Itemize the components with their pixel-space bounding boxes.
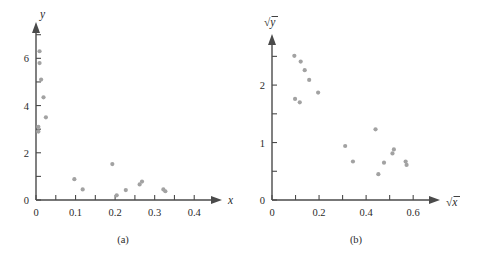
ticks-b: [272, 56, 413, 200]
tick-labels-a: 00.10.20.30.40246: [24, 53, 202, 218]
data-point: [81, 187, 85, 191]
data-point: [382, 161, 386, 165]
y-axis-label-b: √y: [264, 16, 278, 29]
data-point: [351, 159, 355, 163]
y-axis-label-a: y: [39, 8, 46, 21]
figure-container: 00.10.20.30.40246 y x (a) 00.20.40.6012 …: [0, 0, 492, 263]
data-point: [390, 151, 394, 155]
data-point: [343, 144, 347, 148]
x-tick-label: 0.2: [312, 207, 325, 218]
y-tick-label: 2: [260, 80, 265, 91]
axes-b: [268, 34, 440, 204]
data-point: [37, 49, 41, 53]
y-tick-label: 4: [24, 101, 30, 112]
x-tick-label: 0.3: [148, 207, 161, 218]
x-tick-label: 0.1: [69, 207, 82, 218]
data-point: [36, 125, 40, 129]
panel-a: 00.10.20.30.40246 y x (a): [0, 0, 246, 263]
x-axis-label-a: x: [227, 194, 234, 206]
y-tick-label: 0: [24, 195, 29, 206]
x-tick-label: 0.6: [407, 207, 420, 218]
x-tick-label: 0: [269, 207, 274, 218]
data-point: [392, 147, 396, 151]
y-tick-label: 2: [24, 148, 29, 159]
x-tick-label: 0: [33, 207, 38, 218]
svg-text:√y: √y: [264, 16, 276, 29]
data-point: [36, 129, 40, 133]
x-tick-label: 0.2: [109, 207, 122, 218]
svg-text:√x: √x: [446, 196, 458, 208]
data-point: [124, 188, 128, 192]
data-point: [298, 100, 302, 104]
data-points-a: [36, 49, 167, 197]
scatter-plot-b: 00.20.40.6012 √y √x (b): [246, 0, 492, 263]
data-point: [376, 172, 380, 176]
data-point: [110, 162, 114, 166]
ticks-a: [36, 35, 194, 200]
data-point: [303, 68, 307, 72]
data-point: [163, 189, 167, 193]
data-point: [115, 193, 119, 197]
data-point: [39, 77, 43, 81]
scatter-plot-a: 00.10.20.30.40246 y x (a): [0, 0, 246, 263]
x-axis-arrowhead-a: [211, 196, 222, 204]
data-point: [307, 78, 311, 82]
data-points-b: [292, 54, 408, 177]
x-axis-label-b-var: x: [451, 196, 458, 208]
data-point: [72, 177, 76, 181]
y-axis-label-b-var: y: [269, 16, 276, 29]
y-axis-arrowhead-a: [32, 22, 40, 33]
data-point: [299, 59, 303, 63]
axes-a: [32, 22, 222, 204]
data-point: [293, 97, 297, 101]
x-tick-label: 0.4: [360, 207, 374, 218]
y-tick-label: 0: [260, 195, 265, 206]
y-axis-arrowhead-b: [268, 34, 276, 45]
y-tick-label: 6: [24, 53, 29, 64]
data-point: [140, 179, 144, 183]
panel-b: 00.20.40.6012 √y √x (b): [246, 0, 492, 263]
x-axis-arrowhead-b: [429, 196, 440, 204]
data-point: [292, 54, 296, 58]
data-point: [316, 90, 320, 94]
panel-caption-a: (a): [117, 234, 129, 246]
x-axis-label-b: √x: [446, 196, 460, 208]
data-point: [373, 127, 377, 131]
data-point: [404, 163, 408, 167]
data-point: [44, 115, 48, 119]
panel-caption-b: (b): [350, 234, 363, 246]
data-point: [37, 61, 41, 65]
y-tick-label: 1: [260, 138, 265, 149]
data-point: [41, 95, 45, 99]
x-tick-label: 0.4: [188, 207, 202, 218]
